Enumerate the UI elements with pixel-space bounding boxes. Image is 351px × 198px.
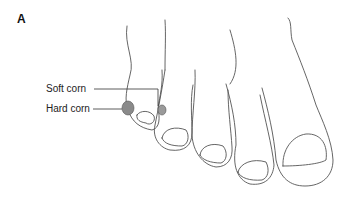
big-toe-outline — [262, 18, 333, 186]
figure: A Soft cor — [0, 0, 351, 198]
big-toe-nail — [283, 134, 326, 166]
soft-corn-label: Soft corn — [46, 83, 86, 94]
foot-contour-2 — [230, 30, 236, 84]
third-toe-nail — [200, 144, 226, 163]
soft-corn-marker — [158, 105, 166, 115]
second-toe-nail — [238, 161, 268, 181]
little-toe-nail — [137, 111, 155, 124]
fourth-toe-nail — [162, 128, 188, 146]
toes-illustration — [0, 0, 351, 198]
hard-corn-label: Hard corn — [46, 103, 90, 114]
hard-corn-marker — [122, 101, 134, 115]
second-toe-outline — [226, 84, 274, 184]
